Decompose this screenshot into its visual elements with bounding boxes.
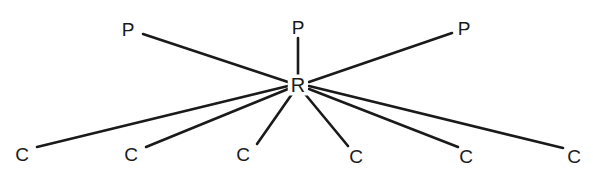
bond-line-c-1 [37, 86, 288, 147]
node-label-c-4: C [349, 147, 363, 166]
node-label-c-6: C [567, 147, 581, 166]
bond-line-p-right [309, 33, 452, 82]
radial-bond-diagram: RPPPCCCCCC [0, 0, 593, 195]
node-label-c-2: C [124, 145, 138, 164]
node-label-c-3: C [236, 145, 250, 164]
node-label-p-center: P [292, 18, 305, 37]
node-label-c-1: C [15, 145, 29, 164]
bond-line-c-2 [146, 89, 288, 147]
bond-line-p-left [143, 34, 288, 82]
node-label-c-5: C [459, 147, 473, 166]
bond-line-c-3 [257, 94, 292, 144]
center-node-label-r: R [288, 75, 308, 96]
node-label-p-right: P [458, 19, 471, 38]
node-label-p-left: P [122, 20, 135, 39]
